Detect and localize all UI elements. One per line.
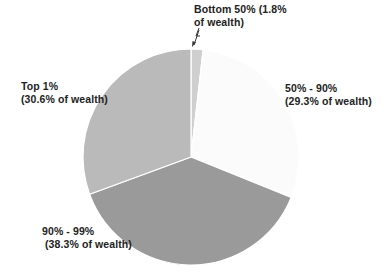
label-50-90-line1: 50% - 90%	[285, 82, 372, 95]
label-bottom-50: Bottom 50% (1.8% of wealth)	[194, 3, 287, 29]
label-90-99-line2: (38.3% of wealth)	[42, 238, 132, 251]
label-bottom-50-line2: of wealth)	[194, 16, 287, 29]
label-90-99-line1: 90% - 99%	[42, 225, 132, 238]
label-top-1-line1: Top 1%	[21, 80, 108, 93]
label-50-90-line2: (29.3% of wealth)	[285, 95, 372, 108]
label-top-1: Top 1% (30.6% of wealth)	[21, 80, 108, 106]
label-bottom-50-line1: Bottom 50% (1.8%	[194, 3, 287, 16]
label-50-90: 50% - 90% (29.3% of wealth)	[285, 82, 372, 108]
label-top-1-line2: (30.6% of wealth)	[21, 93, 108, 106]
label-90-99: 90% - 99% (38.3% of wealth)	[42, 225, 132, 251]
